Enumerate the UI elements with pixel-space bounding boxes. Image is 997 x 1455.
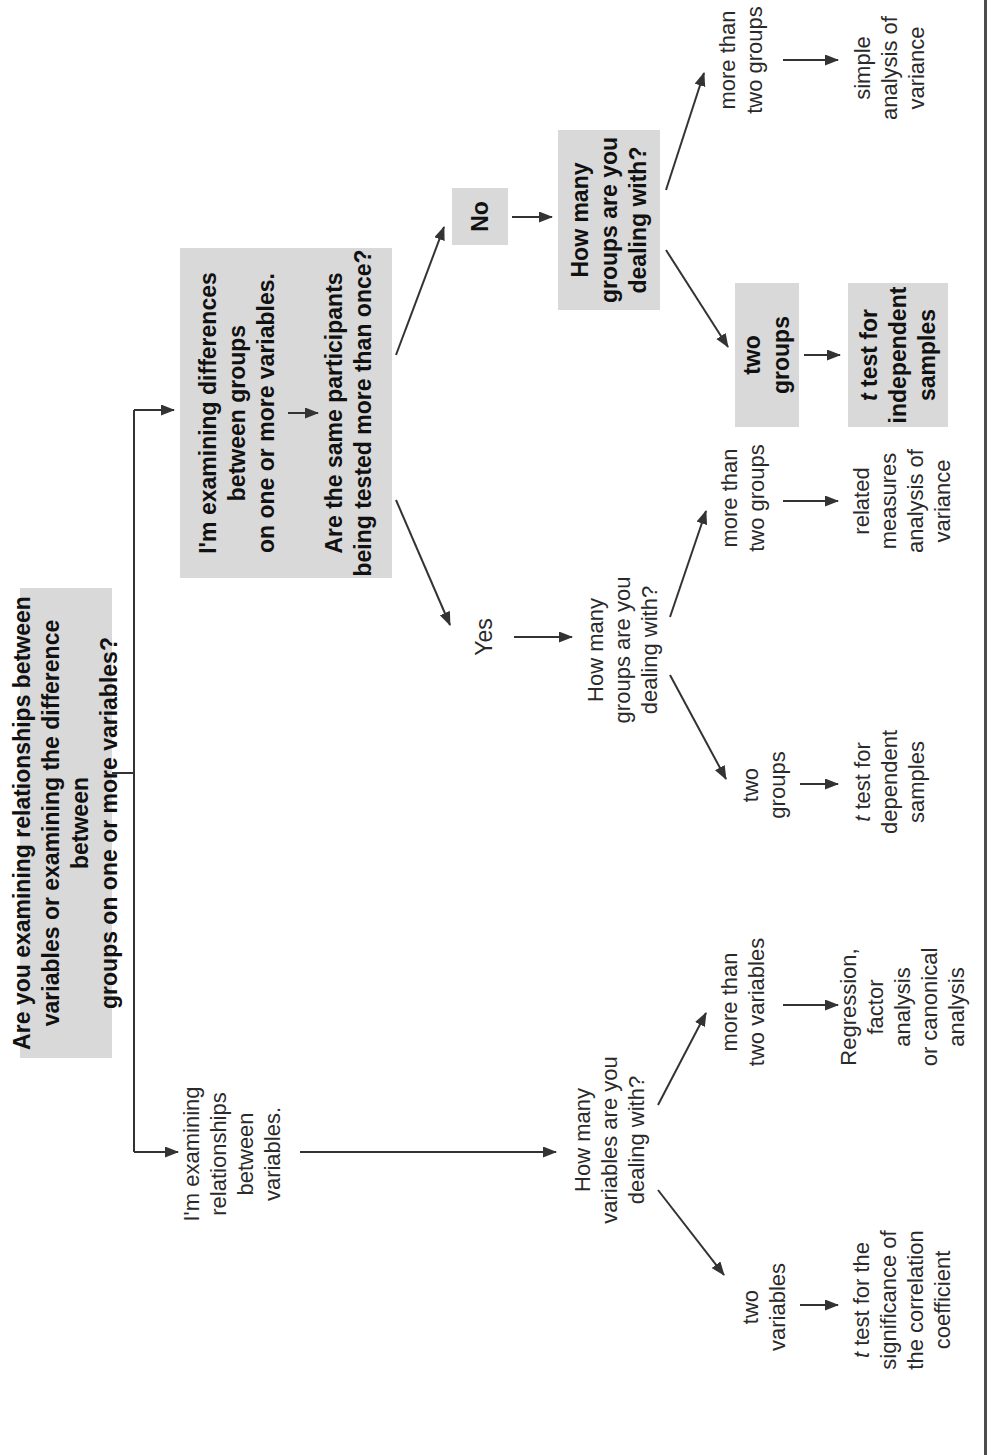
- outcome-text: simple analysis of variance: [849, 16, 930, 120]
- root-question-box: Are you examining relationships between …: [20, 588, 112, 1058]
- label-text: more than two variables: [716, 938, 770, 1066]
- variables-question-text: How many variables are you dealing with?: [569, 1056, 650, 1224]
- relationships-statement-text: I'm examining relationships between vari…: [178, 1063, 286, 1245]
- outcome-t-test-dependent: t test for dependent samples: [845, 719, 933, 845]
- outcome-text: t test for the significance of the corre…: [848, 1230, 956, 1369]
- outcome-regression-factor-canonical: Regression, factor analysis or canonical…: [845, 937, 959, 1077]
- connector-arrow: [658, 1013, 706, 1105]
- connector-arrow: [396, 500, 450, 625]
- bottom-rule: [984, 0, 987, 1455]
- yes-groups-question-text: How many groups are you dealing with?: [582, 577, 663, 724]
- differences-statement-box: I'm examining differences between groups…: [180, 248, 392, 578]
- outcome-related-measures-anova: related measures analysis of variance: [845, 437, 959, 565]
- yes-groups-question-box: How many groups are you dealing with?: [578, 565, 666, 735]
- label-text: two groups: [738, 316, 796, 394]
- connector-arrow: [666, 73, 704, 190]
- outcome-text: Regression, factor analysis or canonical…: [835, 937, 970, 1077]
- connector-arrow: [670, 511, 706, 617]
- root-question-text: Are you examining relationships between …: [8, 588, 124, 1058]
- flowchart-canvas: Are you examining relationships between …: [0, 0, 997, 1455]
- label-text: two variables: [737, 1263, 791, 1351]
- answer-no-text: No: [466, 201, 495, 232]
- label-text: more than two groups: [716, 444, 770, 552]
- differences-statement-text: I'm examining differences between groups…: [194, 272, 281, 554]
- label-more-than-two-groups-repeated: more than two groups: [712, 438, 774, 558]
- outcome-simple-anova: simple analysis of variance: [845, 1, 933, 135]
- outcome-text: related measures analysis of variance: [848, 449, 956, 553]
- label-two-groups-repeated: two groups: [733, 745, 795, 825]
- label-text: two groups: [737, 751, 791, 818]
- outcome-t-test-correlation: t test for the significance of the corre…: [845, 1230, 959, 1370]
- no-groups-question-text: How many groups are you dealing with?: [566, 137, 653, 303]
- label-more-than-two-variables: more than two variables: [712, 934, 774, 1070]
- connector-arrow: [670, 675, 726, 779]
- connector-arrow: [658, 1190, 724, 1275]
- label-two-groups-independent: two groups: [735, 283, 799, 427]
- page: Are you examining relationships between …: [0, 0, 997, 1455]
- label-more-than-two-groups-independent: more than two groups: [710, 0, 772, 120]
- answer-yes-text: Yes: [470, 618, 499, 656]
- connector-arrow: [396, 227, 444, 355]
- outcome-text: t test for dependent samples: [849, 730, 930, 834]
- answer-yes-box: Yes: [458, 605, 510, 669]
- connector-arrow: [666, 250, 728, 347]
- relationships-statement: I'm examining relationships between vari…: [188, 1063, 276, 1245]
- participants-question-text: Are the same participants being tested m…: [320, 249, 378, 576]
- label-two-variables: two variables: [733, 1259, 795, 1355]
- outcome-t-test-independent: t test for independent samples: [848, 283, 948, 427]
- variables-question-box: How many variables are you dealing with?: [565, 1050, 653, 1230]
- outcome-text: t test for independent samples: [855, 287, 942, 424]
- no-groups-question-box: How many groups are you dealing with?: [558, 130, 660, 310]
- label-text: more than two groups: [714, 6, 768, 114]
- answer-no-box: No: [452, 188, 508, 245]
